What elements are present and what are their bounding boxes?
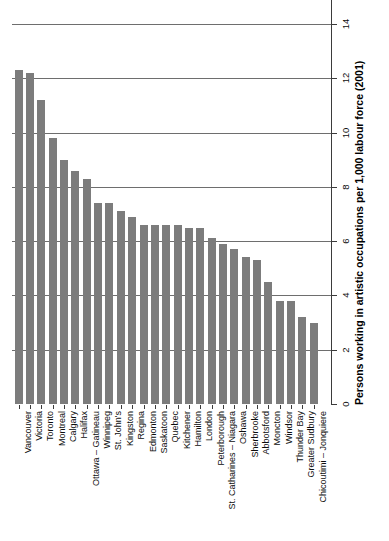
bar [174, 225, 182, 404]
y-axis-line [331, 0, 332, 405]
bar [230, 249, 238, 404]
category-label: Sherbrooke [250, 411, 261, 458]
category-tick [234, 405, 235, 409]
category-tick [75, 405, 76, 409]
category-label: Edmonton [148, 411, 159, 452]
y-axis-tick [331, 187, 337, 188]
category-tick [109, 405, 110, 409]
y-axis-tick [331, 350, 337, 351]
bar [264, 282, 272, 404]
category-label: Winnipeg [102, 411, 113, 449]
category-tick [41, 405, 42, 409]
category-tick [314, 405, 315, 409]
category-tick [200, 405, 201, 409]
category-label: Kingston [125, 411, 136, 446]
category-label: Calgary [68, 411, 79, 442]
category-tick [19, 405, 20, 409]
y-axis-tick [331, 404, 337, 405]
bar [208, 238, 216, 404]
category-label: St. Catharines – Niagara [227, 411, 238, 510]
bar [298, 317, 306, 404]
bar [140, 225, 148, 404]
category-label: Hamilton [193, 411, 204, 447]
bar-chart: 02468101214 Persons working in artistic … [0, 0, 389, 541]
bar [37, 100, 45, 404]
category-tick [64, 405, 65, 409]
category-axis: VancouverVictoriaTorontoMontrealCalgaryH… [12, 405, 331, 541]
bar [49, 138, 57, 404]
category-label: Kitchener [182, 411, 193, 449]
category-label: St. John's [113, 411, 124, 450]
category-label: Ottawa – Gatineau [91, 411, 102, 486]
category-tick [132, 405, 133, 409]
y-axis-tick-label: 14 [341, 16, 351, 32]
bar [151, 225, 159, 404]
category-label: London [204, 411, 215, 441]
category-tick [121, 405, 122, 409]
bar [162, 225, 170, 404]
bar [276, 301, 284, 404]
category-tick [178, 405, 179, 409]
category-label: Vancouver [23, 411, 34, 453]
y-axis-tick-label: 8 [341, 179, 351, 195]
category-label: Victoria [34, 411, 45, 441]
bar [128, 217, 136, 404]
category-label: Oshawa [238, 411, 249, 444]
category-tick [155, 405, 156, 409]
y-axis-tick [331, 133, 337, 134]
bar [219, 244, 227, 404]
plot-area [12, 24, 331, 404]
category-tick [246, 405, 247, 409]
y-axis-tick-label: 4 [341, 287, 351, 303]
bar [196, 228, 204, 404]
bar [26, 73, 34, 404]
category-label: Abbotsford [261, 411, 272, 455]
category-label: Montreal [57, 411, 68, 446]
category-label: Quebec [170, 411, 181, 443]
category-label: Regina [136, 411, 147, 440]
category-tick [302, 405, 303, 409]
y-axis-tick [331, 241, 337, 242]
y-axis-tick-label: 12 [341, 70, 351, 86]
y-axis-title: Persons working in artistic occupations … [352, 0, 366, 405]
bar [83, 179, 91, 404]
category-tick [257, 405, 258, 409]
y-axis-tick [331, 24, 337, 25]
category-tick [189, 405, 190, 409]
bar [310, 323, 318, 404]
category-label: Halifax [79, 411, 90, 439]
category-label: Saskatoon [159, 411, 170, 454]
y-axis-tick-label: 0 [341, 396, 351, 412]
category-tick [166, 405, 167, 409]
category-label: Windsor [284, 411, 295, 444]
category-tick [212, 405, 213, 409]
bar [15, 70, 23, 404]
bar [105, 203, 113, 404]
category-tick [268, 405, 269, 409]
category-tick [98, 405, 99, 409]
category-label: Greater Sudbury [306, 411, 317, 478]
category-tick [87, 405, 88, 409]
bar [117, 211, 125, 404]
y-axis-tick-label: 10 [341, 125, 351, 141]
category-tick [291, 405, 292, 409]
y-axis-tick-label: 2 [341, 342, 351, 358]
bar [242, 257, 250, 404]
bar [60, 160, 68, 404]
category-tick [30, 405, 31, 409]
y-axis-tick [331, 78, 337, 79]
bars [12, 24, 331, 404]
category-tick [53, 405, 54, 409]
category-label: Peterborough [216, 411, 227, 466]
category-tick [223, 405, 224, 409]
category-label: Thunder Bay [295, 411, 306, 463]
y-axis-tick-label: 6 [341, 233, 351, 249]
bar [71, 171, 79, 404]
bar [253, 260, 261, 404]
category-label: Toronto [45, 411, 56, 441]
bar [287, 301, 295, 404]
category-tick [144, 405, 145, 409]
category-label: Chicoutimi – Jonquiere [318, 411, 329, 503]
category-label: Moncton [272, 411, 283, 446]
bar [94, 203, 102, 404]
